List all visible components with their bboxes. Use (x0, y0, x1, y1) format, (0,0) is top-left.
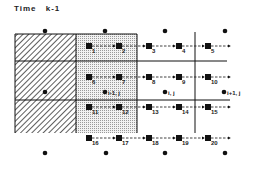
node-label: 9 (182, 79, 186, 85)
node-3: 3 (146, 43, 156, 54)
cell-center (43, 29, 48, 34)
cell-center (104, 151, 109, 156)
cell-center-dot-icon (163, 90, 168, 95)
cell-center-label: i-1, j (108, 90, 120, 96)
node-16: 16 (86, 135, 99, 146)
node-label: 8 (152, 79, 156, 85)
node-9: 9 (176, 74, 186, 85)
node-17: 17 (116, 135, 129, 146)
cell-center (163, 29, 168, 34)
node-13: 13 (146, 104, 159, 115)
node-label: 4 (182, 48, 186, 54)
cell-center (43, 151, 48, 156)
cell-center: i+1, j (222, 90, 241, 96)
cell-center-dot-icon (43, 29, 48, 34)
cell-center: i, j (163, 90, 175, 96)
node-8: 8 (146, 74, 156, 85)
node-19: 19 (176, 135, 189, 146)
cell-center (163, 151, 168, 156)
cell-center (223, 151, 228, 156)
cell-center-dot-icon (223, 29, 228, 34)
cell-center-dot-icon (163, 151, 168, 156)
cell-center-label: i, j (168, 90, 175, 96)
cell-center (103, 29, 108, 34)
node-label: 11 (92, 109, 99, 115)
node-label: 12 (122, 109, 129, 115)
node-15: 15 (205, 104, 218, 115)
cell-center-dot-icon (223, 151, 228, 156)
node-label: 16 (92, 140, 99, 146)
node-label: 14 (182, 109, 189, 115)
stippled-region (76, 34, 137, 133)
node-20: 20 (205, 135, 218, 146)
node-label: 3 (152, 48, 156, 54)
cell-center-dot-icon (43, 151, 48, 156)
cell-center-dot-icon (43, 90, 48, 95)
cell-center-label: i+1, j (227, 90, 241, 96)
node-label: 17 (122, 140, 129, 146)
cell-center-dot-icon (104, 151, 109, 156)
cell-center-dot-icon (103, 90, 108, 95)
node-label: 10 (211, 79, 218, 85)
node-5: 5 (205, 43, 215, 54)
hatched-region (15, 34, 76, 133)
node-label: 5 (211, 48, 215, 54)
node-18: 18 (146, 135, 159, 146)
cell-center-dot-icon (163, 29, 168, 34)
node-14: 14 (176, 104, 189, 115)
cell-center (43, 90, 48, 95)
cell-center-dot-icon (103, 29, 108, 34)
node-label: 19 (182, 140, 189, 146)
node-label: 20 (211, 140, 218, 146)
cell-center (223, 29, 228, 34)
node-10: 10 (205, 74, 218, 85)
node-4: 4 (176, 43, 186, 54)
node-label: 18 (152, 140, 159, 146)
cell-center-dot-icon (222, 90, 227, 95)
grid-diagram: 1234567891011121314151617181920 i-1, ji,… (0, 0, 255, 172)
node-label: 15 (211, 109, 218, 115)
node-label: 13 (152, 109, 159, 115)
